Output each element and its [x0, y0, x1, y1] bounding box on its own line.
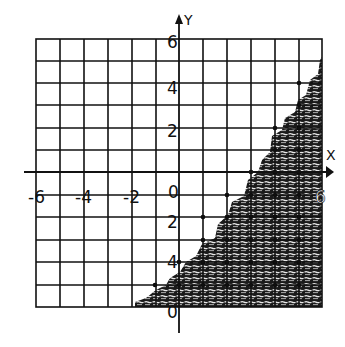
y-axis-arrow-icon [175, 14, 183, 24]
solution-region [135, 57, 322, 307]
x-tick-neg4: -4 [75, 187, 92, 207]
x-tick-neg2: -2 [123, 187, 140, 207]
x-axis-arrow-icon [326, 166, 334, 178]
y-tick-pos4: 4 [167, 78, 178, 98]
y-tick-neg4: 4 [167, 252, 178, 272]
x-tick-pos6: 6 [315, 187, 326, 207]
origin-label: 0 [168, 182, 179, 202]
inequality-graph: Y X -6 -4 -2 0 6 6 4 2 2 4 0 [0, 0, 345, 347]
x-tick-neg6: -6 [28, 187, 45, 207]
shaded-region [135, 57, 322, 307]
x-axis-label: X [326, 147, 336, 163]
y-tick-neg6: 0 [167, 302, 178, 322]
y-tick-pos6: 6 [167, 32, 178, 52]
y-axis-label: Y [183, 12, 193, 28]
y-tick-pos2: 2 [167, 121, 178, 141]
y-tick-neg2: 2 [167, 212, 178, 232]
